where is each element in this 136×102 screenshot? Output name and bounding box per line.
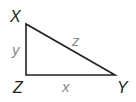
vertex-label-y: Y: [117, 79, 129, 96]
vertex-label-z: Z: [12, 79, 24, 96]
side-label-z: z: [71, 32, 80, 49]
side-label-y: y: [11, 41, 21, 58]
triangle-xyz: [26, 24, 115, 75]
side-label-x: x: [61, 78, 70, 95]
vertex-label-x: X: [9, 8, 22, 25]
triangle-diagram: X Z Y y x z: [0, 0, 136, 102]
